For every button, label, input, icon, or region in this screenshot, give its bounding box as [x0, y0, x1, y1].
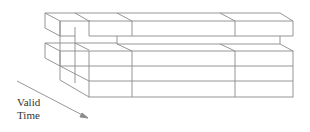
bitemporal-block-diagram: [0, 0, 310, 132]
upper-left-slabs: [45, 13, 90, 83]
top-block: [75, 13, 293, 36]
valid-time-label-line2: Time: [17, 109, 40, 122]
middle-band: [117, 36, 293, 51]
lower-block: [75, 43, 293, 97]
lower-left-slabs: [45, 43, 89, 97]
valid-time-label-line1: Valid: [17, 96, 40, 109]
